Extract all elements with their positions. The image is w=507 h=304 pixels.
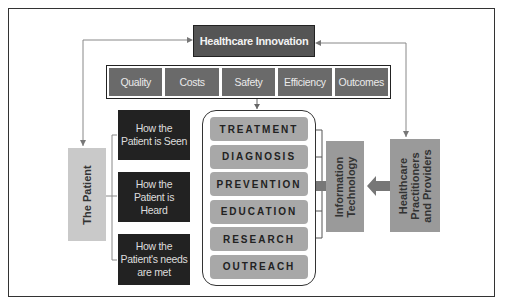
aspect-seen-box: How the Patient is Seen [118, 110, 190, 160]
area-education: EDUCATION [210, 200, 308, 224]
healthcare-innovation-label: Healthcare Innovation [200, 35, 309, 47]
providers-line-1: Healthcare [397, 149, 409, 222]
patient-label: The Patient [81, 165, 93, 224]
aspect-heard-label: How the Patient is Heard [120, 178, 188, 217]
it-line-1: Information [333, 156, 345, 217]
factor-efficiency: Efficiency [278, 68, 331, 96]
providers-line-2: Practitioners [409, 149, 421, 222]
it-line-2: Technology [345, 156, 357, 217]
area-treatment: TREATMENT [210, 117, 308, 141]
providers-line-3: and Providers [421, 149, 433, 222]
care-areas-container: TREATMENT DIAGNOSIS PREVENTION EDUCATION… [202, 110, 316, 286]
area-outreach: OUTREACH [210, 255, 308, 279]
providers-box: Healthcare Practitioners and Providers [390, 139, 440, 232]
aspect-heard-box: How the Patient is Heard [118, 172, 190, 222]
area-diagnosis: DIAGNOSIS [210, 145, 308, 169]
providers-label: Healthcare Practitioners and Providers [397, 149, 433, 222]
aspect-needs-box: How the Patient's needs are met [118, 234, 190, 285]
factor-costs: Costs [165, 68, 218, 96]
patient-box: The Patient [68, 148, 106, 241]
factor-quality: Quality [109, 68, 162, 96]
information-technology-box: Information Technology [326, 141, 364, 232]
area-prevention: PREVENTION [210, 172, 308, 196]
healthcare-innovation-box: Healthcare Innovation [193, 25, 315, 57]
factor-outcomes: Outcomes [335, 68, 388, 96]
factors-bar: Quality Costs Safety Efficiency Outcomes [106, 65, 391, 99]
aspect-needs-label: How the Patient's needs are met [120, 240, 188, 279]
aspect-seen-label: How the Patient is Seen [120, 122, 188, 148]
information-technology-label: Information Technology [333, 156, 357, 217]
factor-safety: Safety [222, 68, 275, 96]
area-research: RESEARCH [210, 227, 308, 251]
